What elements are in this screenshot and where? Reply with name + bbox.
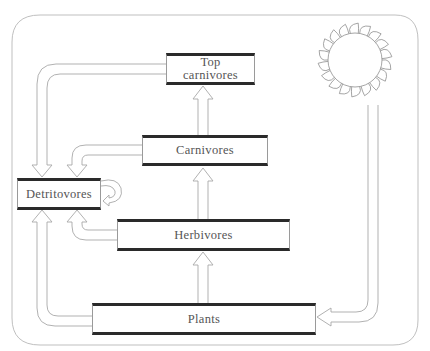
top-carnivores-label-line2: carnivores xyxy=(183,69,238,82)
arrow-herbivores-to-carnivores xyxy=(193,168,213,219)
food-web-diagram: Top carnivores Carnivores Detritovores H… xyxy=(0,0,430,351)
carnivores-label: Carnivores xyxy=(176,144,234,157)
arrow-sun-to-plants xyxy=(317,105,378,326)
node-herbivores: Herbivores xyxy=(117,219,290,251)
sun-icon xyxy=(318,23,392,97)
arrow-plants-to-herbivores xyxy=(193,252,213,303)
arrow-carnivores-to-top-carnivores xyxy=(193,86,213,135)
node-top-carnivores: Top carnivores xyxy=(166,53,255,85)
node-plants: Plants xyxy=(92,303,316,335)
plants-label: Plants xyxy=(188,313,220,326)
arrow-carnivores-to-detritovores xyxy=(67,145,142,177)
herbivores-label: Herbivores xyxy=(174,229,233,242)
node-carnivores: Carnivores xyxy=(142,135,268,166)
detritovores-label: Detritovores xyxy=(26,188,92,201)
node-detritovores: Detritovores xyxy=(17,178,101,210)
arrow-herbivores-to-detritovores xyxy=(67,210,117,240)
arrow-detritovores-self xyxy=(101,180,122,206)
